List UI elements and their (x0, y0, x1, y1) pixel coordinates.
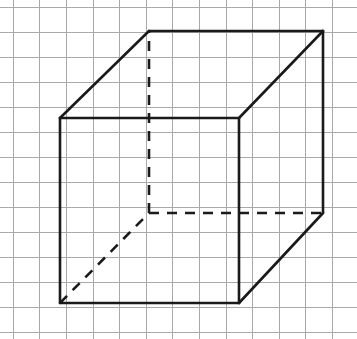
cube-figure-canvas (0, 0, 357, 339)
cube-figure (0, 0, 357, 339)
